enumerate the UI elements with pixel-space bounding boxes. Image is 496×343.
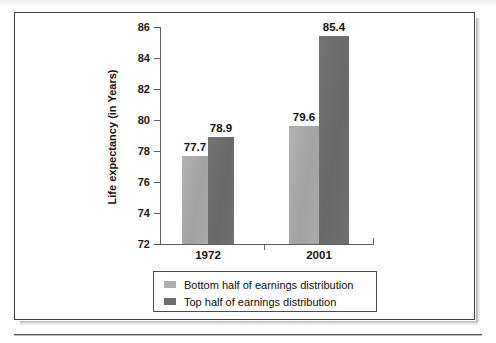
scan-artifact-top bbox=[0, 0, 496, 7]
legend-item: Bottom half of earnings distribution bbox=[164, 276, 376, 293]
y-axis-tick-label: 82 bbox=[128, 83, 150, 95]
y-axis-tick-label: 84 bbox=[128, 52, 150, 64]
y-axis-title: Life expectancy (in Years) bbox=[104, 51, 120, 223]
legend-label-top-half: Top half of earnings distribution bbox=[184, 296, 336, 308]
y-axis-tick bbox=[154, 120, 160, 121]
legend-label-bottom-half: Bottom half of earnings distribution bbox=[184, 279, 353, 291]
y-axis-tick bbox=[154, 182, 160, 183]
bar-top-half-1972: 78.9 bbox=[208, 137, 234, 244]
figure-shadow-bottom bbox=[20, 321, 478, 325]
y-axis-tick-label: 80 bbox=[128, 114, 150, 126]
bar-value-label: 77.7 bbox=[184, 141, 206, 153]
bar-top-half-2001: 85.4 bbox=[319, 36, 349, 244]
x-axis-line bbox=[160, 244, 374, 245]
y-axis-tick-label: 78 bbox=[128, 145, 150, 157]
y-axis-tick bbox=[154, 244, 160, 245]
page-divider-rule-shadow bbox=[14, 335, 482, 336]
y-axis-title-text: Life expectancy (in Years) bbox=[106, 70, 118, 205]
legend-swatch-top-half bbox=[164, 298, 176, 305]
bar-bottom-half-2001: 79.6 bbox=[289, 126, 319, 244]
chart-legend: Bottom half of earnings distribution Top… bbox=[153, 271, 377, 312]
x-axis-group-separator-tick bbox=[264, 245, 265, 250]
y-axis-tick-label: 86 bbox=[128, 21, 150, 33]
y-axis-tick-label: 72 bbox=[128, 238, 150, 250]
bar-value-label: 78.9 bbox=[210, 122, 232, 134]
legend-swatch-bottom-half bbox=[164, 281, 176, 288]
bar-bottom-half-1972: 77.7 bbox=[182, 156, 208, 244]
bar-value-label: 85.4 bbox=[323, 21, 345, 33]
x-axis-label-1972: 1972 bbox=[195, 249, 221, 261]
legend-item: Top half of earnings distribution bbox=[164, 293, 376, 310]
y-axis-tick-label: 76 bbox=[128, 176, 150, 188]
y-axis-tick bbox=[154, 89, 160, 90]
y-axis-tick bbox=[154, 58, 160, 59]
y-axis-tick bbox=[154, 213, 160, 214]
figure-shadow-right bbox=[476, 18, 480, 322]
y-axis-line bbox=[160, 27, 161, 245]
figure-frame: Life expectancy (in Years) 7274767880828… bbox=[14, 12, 475, 320]
x-axis-label-2001: 2001 bbox=[306, 249, 332, 261]
bar-value-label: 79.6 bbox=[293, 111, 315, 123]
x-axis-end-tick bbox=[373, 238, 374, 245]
y-axis-tick-label: 74 bbox=[128, 207, 150, 219]
y-axis-tick bbox=[154, 27, 160, 28]
y-axis-tick bbox=[154, 151, 160, 152]
